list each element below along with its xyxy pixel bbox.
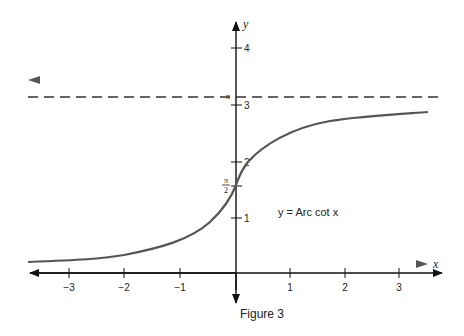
curve-arrow-left bbox=[28, 76, 40, 84]
svg-text:π: π bbox=[224, 176, 228, 185]
curve-arrow-right bbox=[416, 260, 428, 268]
svg-text:1: 1 bbox=[244, 213, 250, 224]
pi-label: π bbox=[226, 92, 230, 101]
y-tick-labels: 1 2 3 4 bbox=[244, 43, 250, 224]
x-tick-labels: −3 −2 −1 1 2 3 bbox=[63, 282, 402, 293]
y-axis-label: y bbox=[242, 17, 249, 31]
figure-caption: Figure 3 bbox=[240, 307, 284, 321]
svg-text:3: 3 bbox=[244, 100, 250, 111]
svg-text:3: 3 bbox=[396, 282, 402, 293]
pi-half-label: π 2 bbox=[222, 176, 230, 195]
svg-text:−2: −2 bbox=[118, 282, 130, 293]
x-axis-label: x bbox=[432, 257, 439, 271]
svg-text:−1: −1 bbox=[174, 282, 186, 293]
curve-label: y = Arc cot x bbox=[278, 206, 339, 218]
svg-text:2: 2 bbox=[342, 282, 348, 293]
svg-text:1: 1 bbox=[287, 282, 293, 293]
arccot-curve bbox=[28, 112, 428, 262]
svg-text:−3: −3 bbox=[63, 282, 75, 293]
arccot-chart: −3 −2 −1 1 2 3 1 2 3 4 π π 2 y x y = Arc… bbox=[0, 0, 464, 336]
svg-text:4: 4 bbox=[244, 43, 250, 54]
svg-text:2: 2 bbox=[224, 186, 228, 195]
